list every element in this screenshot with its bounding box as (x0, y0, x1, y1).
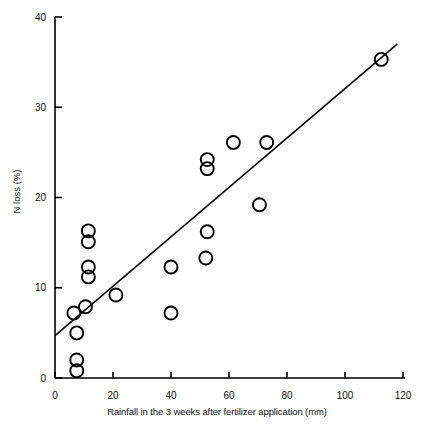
y-tick-label: 20 (35, 192, 47, 203)
x-tick-label: 0 (52, 390, 58, 401)
y-tick-label: 0 (40, 373, 46, 384)
data-point-marker (109, 288, 122, 301)
data-point-marker (165, 260, 178, 273)
data-points-group (67, 53, 387, 377)
regression-line-group (55, 44, 397, 336)
data-point-marker (201, 225, 214, 238)
x-tick-label: 120 (395, 390, 412, 401)
data-point-marker (70, 326, 83, 339)
regression-line (55, 44, 397, 336)
y-tick-label: 40 (35, 12, 47, 23)
data-point-marker (199, 251, 212, 264)
data-point-marker (375, 53, 388, 66)
x-tick-label: 60 (223, 390, 235, 401)
data-point-marker (253, 198, 266, 211)
data-point-marker (260, 136, 273, 149)
x-axis-tick-labels: 020406080100120 (52, 390, 412, 401)
data-point-marker (201, 153, 214, 166)
data-point-marker (227, 136, 240, 149)
x-axis-ticks (55, 372, 403, 378)
y-axis-label: N loss (%) (11, 132, 22, 252)
y-axis-ticks (55, 17, 62, 378)
axes-group: 010203040 020406080100120 (35, 12, 412, 401)
plot-canvas: 010203040 020406080100120 (0, 0, 434, 437)
x-axis-label: Rainfall in the 3 weeks after fertilizer… (0, 406, 434, 417)
data-point-marker (165, 307, 178, 320)
data-point-marker (82, 260, 95, 273)
y-axis-tick-labels: 010203040 (35, 12, 47, 384)
x-tick-label: 80 (281, 390, 293, 401)
x-tick-label: 40 (165, 390, 177, 401)
scatter-plot-figure: 010203040 020406080100120 Rainfall in th… (0, 0, 434, 437)
y-tick-label: 30 (35, 102, 47, 113)
x-tick-label: 100 (337, 390, 354, 401)
y-tick-label: 10 (35, 282, 47, 293)
x-tick-label: 20 (107, 390, 119, 401)
